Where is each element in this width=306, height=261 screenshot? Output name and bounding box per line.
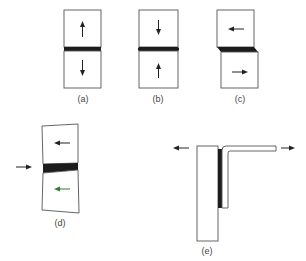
panel-label-a: (a) — [78, 94, 89, 104]
adhesive-layer — [217, 47, 258, 52]
adhesive-joint-diagram: (a) (b) (c) — [0, 0, 306, 261]
panel-label-d: (d) — [55, 218, 66, 228]
adhesive-layer — [138, 47, 179, 51]
lower-adherend — [221, 52, 258, 88]
panel-e: (e) — [173, 146, 295, 257]
arrow-right-external-icon — [281, 146, 295, 151]
adhesive-layer — [218, 149, 222, 208]
panel-label-c: (c) — [235, 94, 246, 104]
panel-b: (b) — [138, 10, 179, 104]
arrow-left-external-icon — [173, 146, 189, 151]
panel-d: (d) — [16, 124, 79, 228]
panel-label-b: (b) — [153, 94, 164, 104]
lower-adherend — [42, 170, 79, 213]
adhesive-layer — [64, 47, 101, 51]
arrow-right-external-icon — [16, 165, 32, 170]
panel-label-e: (e) — [202, 246, 213, 256]
flexible-adherend — [222, 146, 276, 208]
rigid-adherend — [197, 146, 218, 241]
panel-a: (a) — [64, 10, 101, 104]
panel-c: (c) — [217, 10, 258, 104]
